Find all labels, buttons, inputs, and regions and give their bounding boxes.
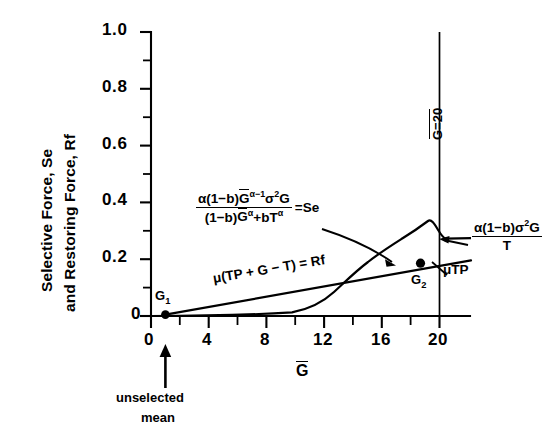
g-equals-20-text: G=20 [430, 108, 445, 140]
x-axis-title-text: G [296, 362, 308, 380]
point-g2-subscript: 2 [421, 280, 426, 290]
point-g1-subscript: 1 [165, 296, 170, 306]
y-tick-label-5: 0.2 [102, 247, 127, 267]
x-tick-label-4: 12 [313, 330, 333, 350]
point-g2-label: G2 [411, 272, 426, 290]
y-tick-label-3: 0.6 [102, 134, 127, 154]
x-tick-label-6: 20 [428, 330, 448, 350]
point-g2-marker [416, 259, 425, 268]
figure-canvas: Selective Force, Se and Restoring Force,… [0, 0, 543, 433]
y-axis-title-line2: and Restoring Force, Rf [61, 134, 79, 312]
y-tick-label-2: 0.8 [102, 77, 127, 97]
se-plateau-fraction: α(1−b)σ2G T [472, 219, 542, 253]
point-g1-letter: G [155, 288, 165, 303]
g-equals-20-label: G=20 [430, 108, 445, 140]
point-g1-marker [161, 310, 170, 319]
y-axis-minor-ticks [143, 60, 151, 287]
se-formula-numerator: α(1−b)Gα−1σ2G [196, 190, 292, 208]
unselected-mean-label-line2: mean [141, 410, 175, 425]
x-tick-label-3: 8 [260, 330, 270, 350]
se-formula-equals: =Se [292, 200, 319, 215]
x-axis-minor-ticks [180, 316, 411, 325]
x-tick-label-1: 0 [144, 330, 154, 350]
se-formula-fraction: α(1−b)Gα−1σ2G (1−b)Gα+bTα [196, 190, 292, 224]
se-formula: α(1−b)Gα−1σ2G (1−b)Gα+bTα =Se [196, 190, 319, 224]
unselected-mean-arrow [160, 344, 172, 388]
se-formula-arrow [322, 229, 396, 267]
se-plateau-formula: α(1−b)σ2G T [472, 219, 542, 253]
y-axis-title-line1: Selective Force, Se [38, 149, 56, 292]
se-plateau-denominator: T [472, 237, 542, 253]
x-tick-label-5: 16 [371, 330, 391, 350]
unselected-mean-label-line1: unselected [116, 390, 184, 405]
se-plateau-numerator: α(1−b)σ2G [472, 219, 542, 237]
point-g2-letter: G [411, 272, 421, 287]
se-formula-denominator: (1−b)Gα+bTα [196, 208, 292, 225]
y-tick-label-6: 0 [131, 304, 141, 324]
x-tick-label-2: 4 [202, 330, 212, 350]
point-g1-label: G1 [155, 288, 170, 306]
x-axis-title: G [296, 362, 308, 380]
mu-tp-label: μTP [443, 262, 469, 277]
y-tick-label-4: 0.4 [102, 190, 127, 210]
y-tick-label-1: 1.0 [102, 20, 127, 40]
